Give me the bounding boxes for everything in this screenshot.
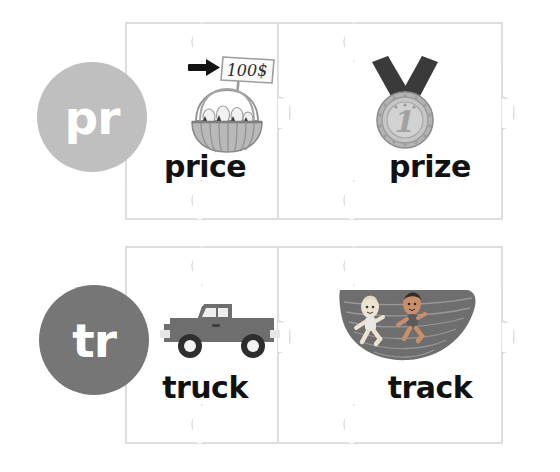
- word-label-truck: truck: [130, 373, 280, 403]
- track-illustration: [334, 284, 482, 374]
- word-label-prize: prize: [355, 152, 505, 182]
- puzzle-board: 100$: [0, 0, 560, 472]
- prize-illustration: 1: [358, 52, 454, 152]
- pickup-truck-icon: [160, 304, 280, 358]
- basket-icon: [192, 89, 262, 152]
- running-track-icon: [339, 290, 475, 360]
- price-illustration: 100$: [182, 45, 288, 153]
- truck-illustration: [158, 296, 282, 368]
- arrow-icon: [188, 59, 220, 76]
- medal-number: 1: [395, 104, 416, 139]
- medal-icon: 1: [377, 92, 433, 148]
- price-tag-text: 100$: [227, 61, 268, 80]
- sound-circle-pr-label: pr: [65, 94, 120, 141]
- sound-circle-tr-label: tr: [72, 317, 116, 364]
- word-label-track: track: [355, 373, 505, 403]
- word-label-price: price: [130, 152, 280, 182]
- price-tag: 100$: [221, 57, 274, 83]
